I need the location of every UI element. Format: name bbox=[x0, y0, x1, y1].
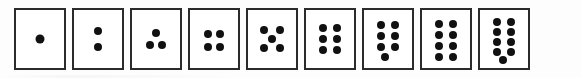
pip-field bbox=[306, 10, 354, 68]
pip-dot bbox=[268, 35, 276, 43]
card-3 bbox=[130, 8, 182, 70]
card-6 bbox=[304, 8, 356, 70]
pip-dot bbox=[333, 46, 341, 54]
pip-field bbox=[190, 10, 238, 68]
pip-field bbox=[364, 10, 412, 68]
pip-dot bbox=[333, 24, 341, 32]
pip-dot bbox=[276, 26, 284, 34]
pip-field bbox=[132, 10, 180, 68]
pip-dot bbox=[435, 20, 443, 28]
pip-dot bbox=[319, 35, 327, 43]
pip-dot bbox=[152, 29, 160, 37]
pip-dot bbox=[493, 48, 501, 56]
pip-dot bbox=[260, 44, 268, 52]
card-8 bbox=[420, 8, 472, 70]
pip-dot bbox=[333, 35, 341, 43]
pip-dot bbox=[204, 43, 212, 51]
pip-dot bbox=[319, 46, 327, 54]
pip-dot bbox=[260, 26, 268, 34]
pip-dot bbox=[391, 32, 399, 40]
paper-edge-shading bbox=[0, 75, 581, 78]
pip-field bbox=[16, 10, 64, 68]
pip-field bbox=[74, 10, 122, 68]
pip-dot bbox=[36, 35, 45, 44]
pip-dot bbox=[377, 32, 385, 40]
pip-dot bbox=[499, 56, 507, 64]
pip-dot bbox=[391, 21, 399, 29]
pip-dot bbox=[493, 18, 501, 26]
pip-dot bbox=[449, 20, 457, 28]
pip-dot bbox=[216, 43, 224, 51]
card-1 bbox=[14, 8, 66, 70]
pip-dot bbox=[449, 53, 457, 61]
pip-dot bbox=[146, 41, 154, 49]
pip-dot bbox=[94, 43, 102, 51]
card-2 bbox=[72, 8, 124, 70]
card-5 bbox=[246, 8, 298, 70]
pip-dot bbox=[449, 31, 457, 39]
pip-field bbox=[248, 10, 296, 68]
pip-dot bbox=[216, 30, 224, 38]
pip-dot bbox=[435, 53, 443, 61]
pip-dot bbox=[493, 28, 501, 36]
pip-dot bbox=[319, 24, 327, 32]
pip-dot bbox=[507, 18, 515, 26]
pip-dot bbox=[204, 30, 212, 38]
pip-dot bbox=[507, 48, 515, 56]
card-9 bbox=[478, 8, 530, 70]
pip-dot bbox=[158, 41, 166, 49]
pip-dot bbox=[276, 44, 284, 52]
pip-dot bbox=[493, 38, 501, 46]
card-7 bbox=[362, 8, 414, 70]
pip-dot bbox=[449, 42, 457, 50]
card-4 bbox=[188, 8, 240, 70]
pip-dot bbox=[94, 27, 102, 35]
pip-field bbox=[422, 10, 470, 68]
dot-card-strip bbox=[0, 0, 581, 78]
pip-field bbox=[480, 10, 528, 68]
pip-dot bbox=[381, 53, 389, 61]
pip-dot bbox=[435, 31, 443, 39]
pip-dot bbox=[507, 28, 515, 36]
pip-dot bbox=[377, 43, 385, 51]
pip-dot bbox=[507, 38, 515, 46]
pip-dot bbox=[391, 43, 399, 51]
pip-dot bbox=[435, 42, 443, 50]
pip-dot bbox=[377, 21, 385, 29]
